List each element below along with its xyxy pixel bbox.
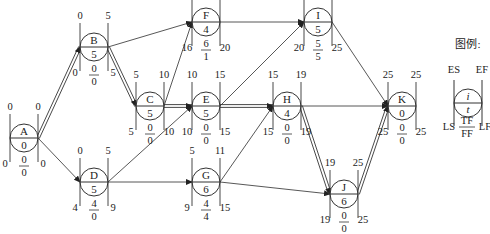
node-ls: 10	[182, 126, 193, 137]
node-ff: 0	[91, 76, 96, 87]
legend-t: t	[466, 103, 470, 115]
node-duration: 5	[203, 107, 209, 119]
node-tf: 4	[203, 198, 209, 209]
node-lf: 0	[40, 158, 45, 169]
node-es: 15	[268, 69, 279, 80]
node-id: D	[90, 169, 98, 181]
nodes-layer: A0000000B5050500C551051000D5054940E51015…	[2, 0, 426, 234]
legend-ff: FF	[461, 128, 473, 139]
node-ls: 15	[263, 126, 274, 137]
node-lf: 25	[332, 42, 343, 53]
node-es: 25	[383, 69, 394, 80]
node-es: 19	[325, 157, 336, 168]
edge-I-K	[332, 22, 388, 106]
node-tf: 0	[21, 154, 26, 165]
node-ef: 25	[411, 69, 422, 80]
node-ls: 0	[2, 158, 7, 169]
node-tf: 0	[147, 122, 152, 133]
node-es: 5	[189, 145, 194, 156]
node-id: H	[283, 93, 291, 105]
node-ff: 0	[284, 135, 289, 146]
edge-G-J	[220, 182, 330, 194]
node-id: K	[398, 93, 406, 105]
node-duration: 4	[284, 107, 290, 119]
node-duration: 5	[315, 23, 321, 35]
node-lf: 19	[301, 126, 312, 137]
node-es: 5	[133, 69, 138, 80]
node-tf: 0	[203, 122, 208, 133]
node-duration: 4	[203, 23, 209, 35]
node-lf: 10	[164, 126, 175, 137]
edge-H-J	[300, 106, 332, 195]
node-ef: 5	[105, 145, 110, 156]
node-id: B	[90, 34, 97, 46]
node-ef: 11	[215, 145, 225, 156]
node-ff: 1	[203, 51, 208, 62]
node-ls: 4	[72, 202, 78, 213]
node-ls: 20	[294, 42, 305, 53]
node-ls: 5	[128, 126, 133, 137]
legend: 图例: ES EF i t LS LF TF FF	[443, 37, 490, 139]
node-tf: 0	[341, 210, 346, 221]
legend-lf: LF	[479, 121, 490, 132]
node-es: 0	[77, 10, 82, 21]
node-duration: 0	[21, 139, 27, 151]
node-ff: 0	[147, 135, 152, 146]
network-diagram: A0000000B5050500C551051000D5054940E51015…	[0, 0, 490, 234]
node-lf: 25	[358, 214, 369, 225]
legend-ls: LS	[443, 121, 455, 132]
edge-A-B	[37, 46, 82, 138]
node-tf: 0	[399, 122, 404, 133]
node-ef: 15	[215, 69, 226, 80]
node-duration: 6	[341, 195, 347, 207]
node-id: F	[203, 9, 209, 21]
edge-J-K	[357, 106, 390, 195]
node-lf: 5	[110, 67, 115, 78]
node-ff: 4	[203, 211, 209, 222]
node-ef: 25	[353, 157, 364, 168]
legend-tf: TF	[461, 115, 473, 126]
node-ff: 0	[91, 211, 96, 222]
node-ff: 0	[399, 135, 404, 146]
node-ls: 9	[184, 202, 189, 213]
node-es: 0	[7, 101, 12, 112]
node-tf: 0	[284, 122, 289, 133]
edge-E-H	[220, 105, 273, 108]
node-tf: 6	[203, 38, 208, 49]
node-id: J	[342, 181, 347, 193]
legend-ef: EF	[476, 64, 488, 75]
edge-C-E	[164, 105, 192, 108]
legend-es: ES	[448, 64, 460, 75]
node-ff: 0	[21, 167, 26, 178]
node-ls: 0	[72, 67, 77, 78]
node-ls: 25	[378, 126, 389, 137]
node-tf: 0	[91, 63, 96, 74]
node-I: I51520202555	[294, 0, 343, 62]
node-tf: 4	[91, 198, 97, 209]
node-lf: 15	[220, 126, 231, 137]
legend-title: 图例:	[455, 37, 480, 50]
node-tf: 5	[315, 38, 320, 49]
node-duration: 5	[147, 107, 153, 119]
legend-i: i	[466, 90, 469, 102]
node-es: 0	[77, 145, 82, 156]
node-duration: 6	[203, 183, 209, 195]
node-ff: 0	[341, 223, 346, 234]
edge-C-F	[164, 22, 192, 106]
node-lf: 25	[416, 126, 427, 137]
node-ls: 16	[182, 42, 193, 53]
node-G: G651191544	[184, 145, 230, 222]
node-es: 10	[187, 69, 198, 80]
node-lf: 20	[220, 42, 231, 53]
node-K: K02525252500	[378, 69, 427, 146]
edge-G-H	[220, 106, 273, 182]
node-ff: 0	[203, 135, 208, 146]
node-lf: 15	[220, 202, 231, 213]
node-duration: 5	[91, 48, 97, 60]
node-lf: 9	[110, 202, 115, 213]
node-J: J61925192500	[320, 157, 369, 234]
edge-B-F	[108, 22, 192, 47]
node-ef: 10	[159, 69, 170, 80]
node-id: E	[203, 93, 210, 105]
node-ff: 5	[315, 51, 320, 62]
